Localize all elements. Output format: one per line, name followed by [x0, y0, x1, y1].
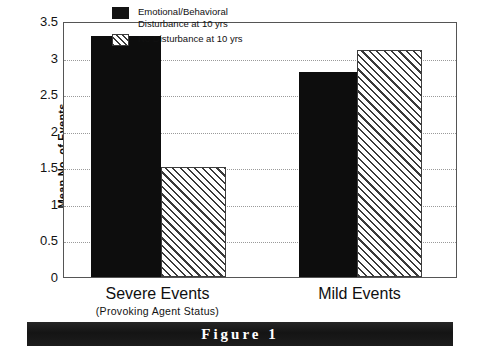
y-tick-label: 1.5: [24, 161, 58, 174]
bar-mild-events-series-1: [299, 72, 357, 277]
legend-swatch-icon: [112, 7, 129, 19]
chart-legend: Emotional/Behavioral Disturbance at 10 y…: [112, 6, 352, 50]
figure-caption-bar: Figure 1: [27, 322, 453, 346]
bar-mild-events-series-2: [357, 50, 422, 277]
figure-caption-text: Figure 1: [201, 326, 278, 343]
y-tick-label: 1: [24, 198, 58, 211]
x-axis-sublabel-provoking-agent-status: (Provoking Agent Status): [48, 305, 268, 317]
y-tick-label: 3: [24, 52, 58, 65]
legend-item-1: Emotional/Behavioral Disturbance at 10 y…: [112, 6, 352, 29]
x-axis-label-severe-events: Severe Events: [48, 285, 268, 303]
y-tick-label: 3.5: [24, 15, 58, 28]
y-tick-label: 2.5: [24, 88, 58, 101]
bar-severe-events-series-1: [91, 36, 161, 277]
legend-swatch-icon: [112, 34, 129, 46]
x-axis-label-mild-events: Mild Events: [250, 285, 470, 303]
legend-label: No Disturbance at 10 yrs: [138, 33, 243, 45]
figure-container: Mean No. of Events 00.511.522.533.5 Emot…: [0, 0, 479, 352]
y-tick-label: 0.5: [24, 234, 58, 247]
plot-area: [63, 22, 457, 278]
legend-label: Emotional/Behavioral Disturbance at 10 y…: [138, 6, 228, 29]
legend-item-2: No Disturbance at 10 yrs: [112, 33, 352, 46]
y-tick-label: 0: [24, 271, 58, 284]
y-tick-label: 2: [24, 125, 58, 138]
plot-inner: [64, 23, 456, 277]
bar-severe-events-series-2: [161, 167, 226, 277]
